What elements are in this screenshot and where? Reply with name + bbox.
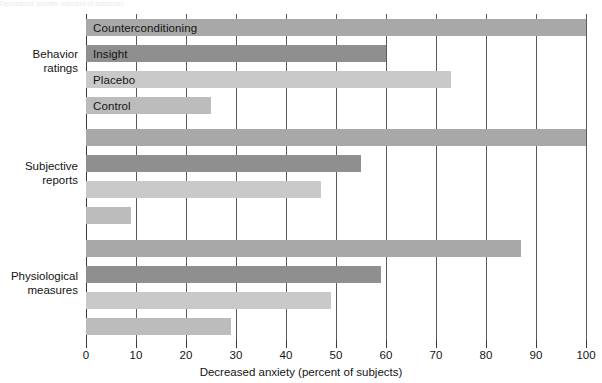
- bar-row: [86, 207, 586, 224]
- x-tick-label-30: 30: [216, 349, 256, 361]
- x-tick-60: [386, 340, 387, 348]
- x-tick-90: [536, 340, 537, 348]
- bar-placebo[interactable]: [86, 181, 321, 198]
- category-label-3: Physiologicalmeasures: [0, 270, 78, 297]
- x-tick-label-20: 20: [166, 349, 206, 361]
- x-tick-10: [136, 340, 137, 348]
- category-label-line1: Physiological: [0, 270, 78, 284]
- bar-insight[interactable]: [86, 45, 386, 62]
- category-label-line1: Subjective: [0, 160, 78, 174]
- bar-control[interactable]: [86, 207, 131, 224]
- bar-row: [86, 240, 586, 257]
- category-label-1: Behaviorratings: [0, 48, 78, 75]
- x-tick-80: [486, 340, 487, 348]
- bar-insight[interactable]: [86, 266, 381, 283]
- x-tick-label-40: 40: [266, 349, 306, 361]
- x-tick-label-80: 80: [466, 349, 506, 361]
- x-tick-label-0: 0: [66, 349, 106, 361]
- x-tick-20: [186, 340, 187, 348]
- category-label-line2: ratings: [0, 62, 78, 76]
- bar-label-placebo: Placebo: [93, 74, 135, 86]
- bar-insight[interactable]: [86, 155, 361, 172]
- x-tick-100: [586, 340, 587, 348]
- clipped-header-text: Decreased anxiety (percent of subjects): [0, 0, 602, 6]
- x-tick-label-60: 60: [366, 349, 406, 361]
- bar-placebo[interactable]: [86, 292, 331, 309]
- x-tick-30: [236, 340, 237, 348]
- bar-row: [86, 292, 586, 309]
- x-tick-label-10: 10: [116, 349, 156, 361]
- bar-row: [86, 181, 586, 198]
- x-tick-label-70: 70: [416, 349, 456, 361]
- x-tick-0: [86, 340, 87, 348]
- gridline-100: [586, 14, 587, 340]
- x-tick-70: [436, 340, 437, 348]
- category-label-line2: reports: [0, 174, 78, 188]
- category-label-2: Subjectivereports: [0, 160, 78, 187]
- x-tick-label-100: 100: [566, 349, 602, 361]
- bar-placebo[interactable]: [86, 71, 451, 88]
- bar-row: [86, 155, 586, 172]
- bar-counterconditioning[interactable]: [86, 129, 586, 146]
- bar-label-counterconditioning: Counterconditioning: [93, 22, 197, 34]
- bar-label-control: Control: [93, 100, 131, 112]
- bar-chart: Decreased anxiety (percent of subjects) …: [0, 0, 602, 383]
- x-tick-40: [286, 340, 287, 348]
- x-tick-50: [336, 340, 337, 348]
- bar-control[interactable]: [86, 318, 231, 335]
- bar-row: Control: [86, 97, 586, 114]
- bar-row: [86, 129, 586, 146]
- bar-row: Placebo: [86, 71, 586, 88]
- category-label-line2: measures: [0, 284, 78, 298]
- bar-row: Counterconditioning: [86, 19, 586, 36]
- bar-row: [86, 266, 586, 283]
- bar-row: [86, 318, 586, 335]
- bar-counterconditioning[interactable]: [86, 240, 521, 257]
- bar-label-insight: Insight: [93, 48, 128, 60]
- bar-row: Insight: [86, 45, 586, 62]
- x-tick-label-90: 90: [516, 349, 556, 361]
- x-axis-title: Decreased anxiety (percent of subjects): [0, 366, 602, 378]
- x-tick-label-50: 50: [316, 349, 356, 361]
- plot-area: CounterconditioningInsightPlaceboControl: [86, 14, 586, 340]
- category-label-line1: Behavior: [0, 48, 78, 62]
